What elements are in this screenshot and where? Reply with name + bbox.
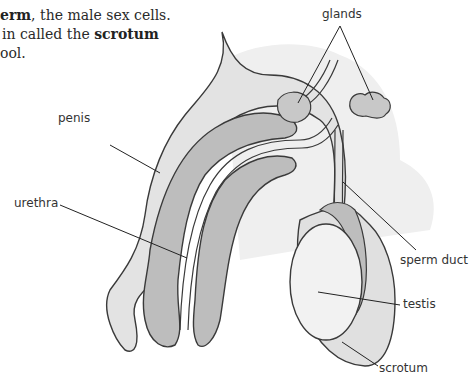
label-scrotum: scrotum bbox=[379, 361, 428, 375]
label-testis: testis bbox=[403, 297, 436, 311]
gland-left bbox=[277, 92, 310, 122]
label-penis: penis bbox=[58, 111, 90, 125]
label-urethra: urethra bbox=[14, 196, 58, 210]
leader-penis bbox=[110, 145, 160, 173]
testis-shape bbox=[290, 224, 362, 340]
anatomy-diagram bbox=[0, 0, 470, 384]
label-glands: glands bbox=[322, 7, 362, 21]
label-sperm-duct: sperm duct bbox=[400, 253, 468, 267]
